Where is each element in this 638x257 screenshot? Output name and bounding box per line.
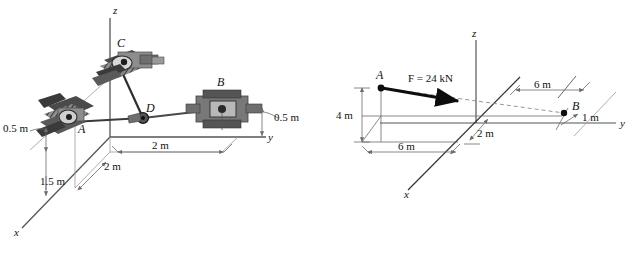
- dim-label-height: 4 m: [336, 109, 353, 121]
- dim-label-a-run: 2 m: [104, 160, 121, 172]
- dim-label-b-run: 2 m: [152, 139, 169, 151]
- construction-x-parallel: [558, 76, 576, 98]
- point-label-a: A: [77, 122, 86, 136]
- dim-label-a-depth: 1.5 m: [40, 175, 66, 187]
- dim-label-y-span: 6 m: [534, 78, 551, 90]
- bracket-b: [186, 90, 262, 130]
- point-label-a: A: [375, 68, 384, 82]
- force-label: F = 24 kN: [408, 72, 453, 84]
- right-axes: [380, 40, 616, 190]
- bracket-c: [92, 50, 164, 86]
- point-label-b: B: [572, 99, 580, 113]
- force-vector-arrow: [382, 88, 458, 101]
- point-label-d: D: [145, 101, 155, 115]
- construction-plane-left: [362, 116, 381, 142]
- dim-label-a-offset: 0.5 m: [3, 122, 29, 134]
- point-marker-a: [378, 85, 385, 92]
- x-axis-label: x: [13, 226, 19, 238]
- y-axis-label: y: [619, 117, 625, 129]
- construction-b-drop: [222, 137, 238, 152]
- dim-b-run: [112, 144, 232, 152]
- dim-label-y-origin: 2 m: [477, 127, 494, 139]
- point-label-b: B: [217, 75, 225, 89]
- figure-root: z y x: [0, 0, 638, 257]
- x-axis-label: x: [403, 188, 409, 200]
- dim-label-b-offset: 1 m: [582, 111, 599, 123]
- diagram-cable-bracket-assembly: z y x: [0, 0, 320, 257]
- x-axis: [22, 137, 110, 228]
- z-axis-label: z: [471, 27, 477, 39]
- dim-label-x-depth: 6 m: [398, 140, 415, 152]
- y-axis-label: y: [267, 131, 273, 143]
- dim-label-b-offset: 0.5 m: [274, 111, 300, 123]
- point-marker-b: [561, 110, 567, 116]
- left-canvas: z y x: [0, 0, 320, 257]
- point-label-c: C: [117, 36, 126, 50]
- right-canvas: z y x A F = 24 kN B: [320, 0, 638, 257]
- diagram-force-vector: z y x A F = 24 kN B: [320, 0, 638, 257]
- z-axis-label: z: [112, 4, 118, 16]
- cable-c-d: [122, 72, 143, 118]
